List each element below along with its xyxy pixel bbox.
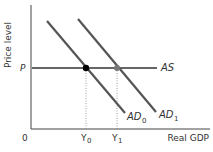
svg-text:AD: AD <box>126 111 142 122</box>
svg-text:Y: Y <box>111 133 118 143</box>
equilibrium-point-0 <box>83 65 89 71</box>
svg-text:AD: AD <box>158 109 174 120</box>
origin-label: 0 <box>22 133 28 143</box>
ad1-label: AD 1 <box>158 109 178 123</box>
as-label: AS <box>160 62 175 73</box>
y1-tick-label: Y 1 <box>111 133 122 145</box>
svg-text:Y: Y <box>80 133 87 143</box>
svg-text:0: 0 <box>142 117 146 125</box>
ad0-label: AD 0 <box>126 111 146 125</box>
svg-text:0: 0 <box>87 137 91 145</box>
y-axis-label: Price level <box>3 22 13 68</box>
aggregate-demand-chart: Price level P AS AD 0 AD 1 0 Y 0 Y 1 Rea… <box>0 0 213 152</box>
y0-tick-label: Y 0 <box>80 133 91 145</box>
equilibrium-point-1 <box>114 65 120 71</box>
x-axis-label: Real GDP <box>167 133 209 143</box>
svg-text:1: 1 <box>174 115 178 123</box>
svg-text:1: 1 <box>118 137 122 145</box>
p-label: P <box>20 63 26 73</box>
